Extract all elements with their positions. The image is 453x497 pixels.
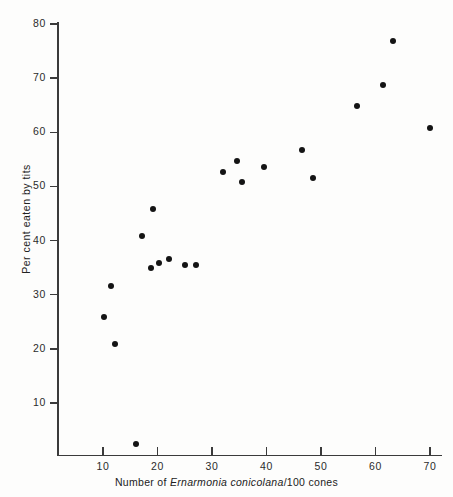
data-point [380,82,386,88]
y-axis-tick-label: 20 [6,342,46,354]
x-axis-tick-label: 10 [88,460,118,472]
data-point [166,256,172,262]
data-point [239,179,245,185]
y-axis-tick [50,294,59,295]
x-axis-tick [320,447,321,456]
y-axis-tick [50,402,59,403]
data-point [112,341,118,347]
x-axis-tick [375,447,376,456]
data-point [427,125,433,131]
y-axis-tick-label: 10 [6,396,46,408]
data-point [101,314,107,320]
x-axis-tick-label: 20 [143,460,173,472]
y-axis-tick [50,186,59,187]
data-point [139,233,145,239]
x-axis-tick-label: 50 [306,460,336,472]
data-point [148,265,154,271]
data-point [150,206,156,212]
data-point [261,164,267,170]
data-point [234,158,240,164]
x-axis-tick-label: 60 [361,460,391,472]
data-point [133,441,139,447]
data-point [299,147,305,153]
y-axis-tick [50,240,59,241]
x-axis-tick-label: 70 [415,460,445,472]
x-axis-title-suffix: /100 cones [284,476,338,488]
y-axis-tick [50,23,59,24]
data-point [354,103,360,109]
x-axis-tick [429,447,430,456]
data-point [390,38,396,44]
y-axis-title: Per cent eaten by tits [20,119,32,319]
data-point [220,169,226,175]
y-axis-tick-label: 70 [6,71,46,83]
x-axis-tick [157,447,158,456]
y-axis-tick [50,348,59,349]
x-axis-tick [211,447,212,456]
y-axis-tick [50,132,59,133]
y-axis-tick [50,77,59,78]
data-point [193,262,199,268]
x-axis-title: Number of Ernarmonia conicolana/100 cone… [0,476,453,488]
scatter-plot-figure: 1020304050607080 10203040506070 Per cent… [0,0,453,497]
data-point [182,262,188,268]
x-axis-tick [102,447,103,456]
x-axis-title-species: Ernarmonia conicolana [170,476,284,488]
x-axis-line [57,455,442,457]
x-axis-tick [266,447,267,456]
x-axis-tick-label: 30 [197,460,227,472]
data-point [108,283,114,289]
x-axis-tick-label: 40 [252,460,282,472]
data-point [310,175,316,181]
data-point [156,260,162,266]
y-axis-tick-label: 80 [6,17,46,29]
x-axis-title-prefix: Number of [115,476,170,488]
